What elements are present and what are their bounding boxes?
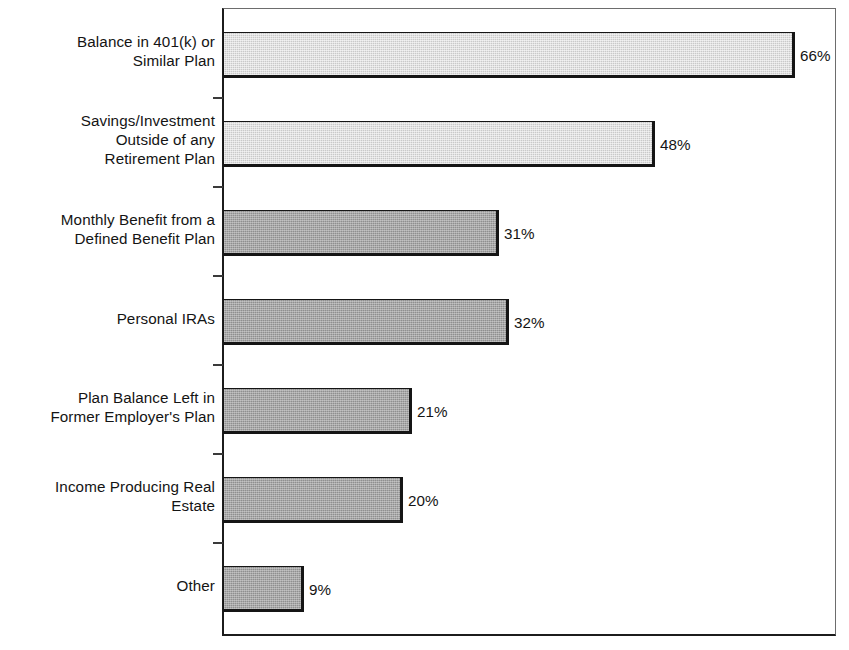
bar-segment[interactable]	[223, 299, 509, 345]
category-label: Personal IRAs	[0, 309, 215, 328]
bar-chart: Balance in 401(k) or Similar Plan 66% Sa…	[0, 0, 849, 650]
bar-segment[interactable]	[223, 210, 499, 256]
bar-value-label: 9%	[309, 581, 331, 599]
bar-value-label: 48%	[660, 136, 690, 154]
category-label: Income Producing Real Estate	[0, 477, 215, 515]
bar-segment[interactable]	[223, 477, 403, 523]
chart-row: Personal IRAs 32%	[0, 277, 849, 366]
bar-segment[interactable]	[223, 388, 412, 434]
bar-segment[interactable]	[223, 32, 795, 78]
category-label: Balance in 401(k) or Similar Plan	[0, 32, 215, 70]
chart-row: Savings/Investment Outside of any Retire…	[0, 99, 849, 188]
chart-row: Other 9%	[0, 544, 849, 633]
chart-row: Monthly Benefit from a Defined Benefit P…	[0, 188, 849, 277]
category-label: Other	[0, 576, 215, 595]
category-label: Monthly Benefit from a Defined Benefit P…	[0, 210, 215, 248]
bar-segment[interactable]	[223, 566, 304, 612]
chart-row: Plan Balance Left in Former Employer's P…	[0, 366, 849, 455]
bar-value-label: 32%	[514, 314, 544, 332]
category-label: Plan Balance Left in Former Employer's P…	[0, 388, 215, 426]
bar-value-label: 21%	[417, 403, 447, 421]
bar-value-label: 20%	[408, 492, 438, 510]
category-label: Savings/Investment Outside of any Retire…	[0, 111, 215, 168]
chart-row: Income Producing Real Estate 20%	[0, 455, 849, 544]
bar-value-label: 66%	[800, 47, 830, 65]
bar-segment[interactable]	[223, 121, 655, 167]
chart-row: Balance in 401(k) or Similar Plan 66%	[0, 10, 849, 99]
bar-value-label: 31%	[504, 225, 534, 243]
